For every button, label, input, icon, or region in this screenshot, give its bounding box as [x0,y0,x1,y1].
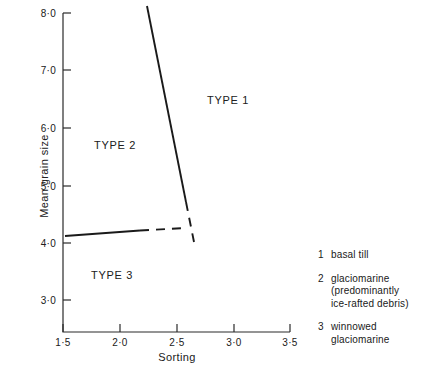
chart-figure: 8·0 7·0 6·0 5·0 4·0 3·0 1·5 2·0 2·5 3·0 … [0,0,441,371]
y-tick-label: 4·0 [22,238,56,249]
x-axis-ticks [63,324,290,332]
region-label-type-2: TYPE 2 [94,139,136,151]
axis-spines [63,13,290,332]
boundary-type1-type2-solid [147,6,186,202]
y-tick-label: 3·0 [22,295,56,306]
y-tick-label: 8·0 [22,8,56,19]
boundary-type1-type2-dashed [186,202,194,242]
legend-item-label: glaciomarine (predominantly ice-rafted d… [331,273,409,311]
y-axis-ticks [63,13,71,300]
x-tick-label: 3·0 [226,337,241,348]
legend-item-number: 2 [318,273,331,284]
region-label-type-1: TYPE 1 [207,94,249,106]
x-tick-label: 1·5 [55,337,70,348]
legend-item-number: 1 [318,249,331,260]
x-axis-title: Sorting [158,351,196,363]
x-tick-label: 3·5 [282,337,297,348]
legend-item: 2 glaciomarine (predominantly ice-rafted… [318,273,438,311]
x-tick-label: 2·5 [169,337,184,348]
legend-item-label: winnowed glaciomarine [331,321,390,346]
legend-item: 3 winnowed glaciomarine [318,321,438,346]
y-tick-label: 7·0 [22,65,56,76]
region-label-type-3: TYPE 3 [91,269,133,281]
x-tick-label: 2·0 [112,337,127,348]
boundary-type2-type3-dashed [140,228,187,231]
y-axis-title: Mean grain size [38,134,50,218]
legend-item: 1 basal till [318,249,438,262]
boundary-type2-type3-solid [65,231,140,237]
legend: 1 basal till 2 glaciomarine (predominant… [318,249,438,357]
y-tick-label: 6·0 [22,123,56,134]
legend-item-number: 3 [318,321,331,332]
legend-item-label: basal till [331,249,369,262]
